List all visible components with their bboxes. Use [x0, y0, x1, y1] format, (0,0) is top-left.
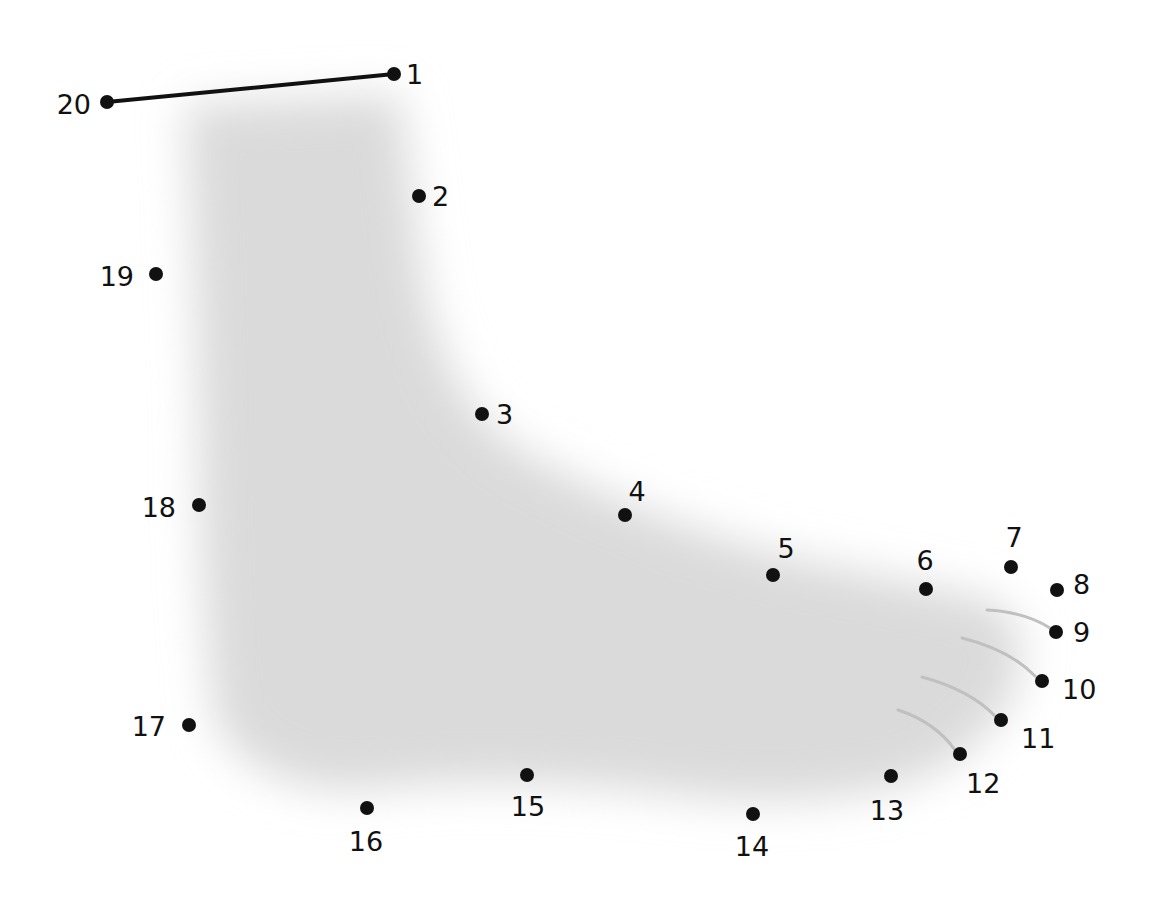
dot-number-label: 11 — [1021, 723, 1055, 754]
dot-number-label: 8 — [1073, 569, 1090, 600]
dot-9[interactable]: 9 — [1049, 617, 1090, 648]
dot-number-label: 10 — [1062, 674, 1096, 705]
dot-number-label: 2 — [432, 181, 449, 212]
dot-marker[interactable] — [1035, 674, 1049, 688]
dot-marker[interactable] — [360, 801, 374, 815]
dot-marker[interactable] — [1004, 560, 1018, 574]
dot-marker[interactable] — [387, 67, 401, 81]
dot-number-label: 6 — [916, 545, 933, 576]
dot-number-label: 19 — [100, 261, 134, 292]
dot-1[interactable]: 1 — [387, 59, 423, 90]
dot-number-label: 16 — [349, 826, 383, 857]
dot-marker[interactable] — [919, 582, 933, 596]
dot-marker[interactable] — [182, 718, 196, 732]
dot-12[interactable]: 12 — [953, 747, 1000, 799]
dot-10[interactable]: 10 — [1035, 674, 1096, 705]
dot-marker[interactable] — [100, 95, 114, 109]
dot-16[interactable]: 16 — [349, 801, 383, 857]
dot-marker[interactable] — [746, 807, 760, 821]
dot-marker[interactable] — [520, 768, 534, 782]
dot-19[interactable]: 19 — [100, 261, 163, 292]
dot-marker[interactable] — [953, 747, 967, 761]
dot-number-label: 14 — [735, 831, 769, 862]
dot-7[interactable]: 7 — [1004, 522, 1023, 574]
dot-8[interactable]: 8 — [1050, 569, 1090, 600]
dot-17[interactable]: 17 — [132, 711, 196, 742]
dot-number-label: 12 — [966, 768, 1000, 799]
dot-number-label: 18 — [142, 492, 176, 523]
dot-number-label: 9 — [1073, 617, 1090, 648]
dot-number-label: 17 — [132, 711, 166, 742]
dot-marker[interactable] — [1049, 625, 1063, 639]
dot-marker[interactable] — [1050, 583, 1064, 597]
dot-number-label: 4 — [628, 476, 645, 507]
dot-to-dot-canvas[interactable]: 1234567891011121314151617181920 — [0, 0, 1157, 906]
sock-shading — [185, 95, 1021, 800]
dot-number-label: 3 — [496, 399, 513, 430]
dot-20[interactable]: 20 — [57, 89, 114, 120]
dot-marker[interactable] — [412, 189, 426, 203]
dot-number-label: 7 — [1005, 522, 1022, 553]
dot-marker[interactable] — [149, 267, 163, 281]
dot-11[interactable]: 11 — [994, 713, 1055, 754]
dot-number-label: 1 — [406, 59, 423, 90]
dot-18[interactable]: 18 — [142, 492, 206, 523]
dot-marker[interactable] — [192, 498, 206, 512]
dot-marker[interactable] — [475, 407, 489, 421]
dot-number-label: 20 — [57, 89, 91, 120]
dot-marker[interactable] — [766, 568, 780, 582]
dot-number-label: 15 — [511, 791, 545, 822]
dot-marker[interactable] — [618, 508, 632, 522]
dot-number-label: 5 — [777, 533, 794, 564]
dot-2[interactable]: 2 — [412, 181, 449, 212]
dot-number-label: 13 — [870, 795, 904, 826]
dot-marker[interactable] — [994, 713, 1008, 727]
dot-marker[interactable] — [884, 769, 898, 783]
dot-14[interactable]: 14 — [735, 807, 769, 862]
